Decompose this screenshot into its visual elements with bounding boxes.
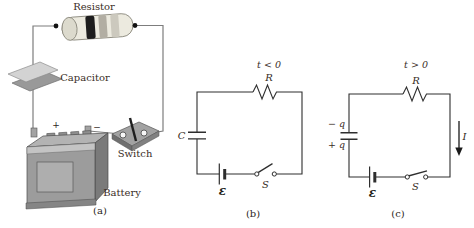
panel-b-caption: (b)	[246, 208, 260, 219]
switch-illustration	[112, 118, 159, 151]
battery-plus-sign: +	[52, 120, 60, 130]
switch-node	[272, 172, 276, 176]
capacitor-label: Capacitor	[60, 72, 110, 83]
resistor-symbol	[403, 87, 428, 101]
capacitor-symbol	[188, 132, 206, 139]
panel-c-schematic: t > 0 R − q + q ε S I (c)	[328, 59, 468, 219]
battery-label: Battery	[103, 187, 141, 198]
emf-label: ε	[369, 186, 377, 200]
resistance-label: R	[264, 72, 273, 83]
switch-node	[255, 172, 259, 176]
circuit-wire	[349, 94, 450, 177]
switch-label: Switch	[118, 148, 153, 159]
panel-a-caption: (a)	[93, 205, 107, 216]
panel-b-schematic: t < 0 R C ε S (b)	[178, 59, 302, 219]
switch-node	[424, 175, 428, 179]
figure-svg: Resistor Capacitor + − Switch Battery (a…	[0, 0, 474, 228]
resistor-illustration	[61, 13, 133, 41]
switch-node	[405, 175, 409, 179]
switch-label: S	[262, 179, 269, 190]
battery-minus-sign: −	[93, 122, 101, 132]
emf-label: ε	[219, 184, 227, 198]
resistance-label: R	[411, 75, 420, 86]
wire	[135, 26, 163, 135]
rc-circuit-figure: Resistor Capacitor + − Switch Battery (a…	[0, 0, 474, 228]
charge-top-label: − q	[328, 118, 345, 129]
time-condition-label: t > 0	[404, 59, 428, 70]
battery-illustration	[26, 126, 108, 209]
circuit-wire	[197, 92, 302, 174]
current-label: I	[462, 131, 468, 142]
resistor-symbol	[253, 85, 278, 99]
junction-dot	[54, 24, 59, 29]
capacitance-label: C	[178, 130, 186, 141]
charge-bottom-label: + q	[328, 139, 345, 150]
resistor-label: Resistor	[73, 1, 115, 12]
junction-dot	[133, 23, 138, 28]
switch-blade-open	[258, 164, 273, 173]
panel-a-pictorial: Resistor Capacitor + − Switch Battery (a…	[8, 1, 163, 216]
wire	[33, 26, 56, 66]
time-condition-label: t < 0	[257, 59, 281, 70]
panel-c-caption: (c)	[391, 208, 405, 219]
capacitor-illustration	[8, 62, 62, 91]
switch-label: S	[412, 181, 419, 192]
